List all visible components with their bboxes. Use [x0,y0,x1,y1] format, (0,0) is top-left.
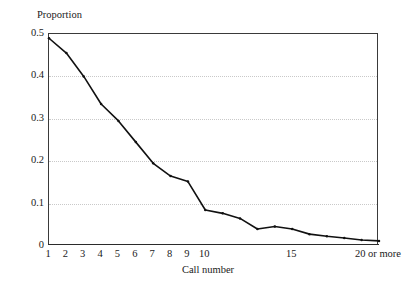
data-point [221,212,224,215]
data-point [117,120,120,123]
data-point [100,103,103,106]
y-axis-ticks: 00.10.20.30.40.5 [0,33,44,245]
x-tick-label: 6 [132,248,137,259]
data-point [343,237,346,240]
x-tick-label: 4 [97,248,102,259]
x-axis-title: Call number [0,264,416,276]
data-point [82,75,85,78]
data-point [291,228,294,231]
data-point [239,217,242,220]
data-point [65,52,68,55]
y-tick-label: 0.5 [0,28,44,39]
y-tick-label: 0.2 [0,155,44,166]
x-axis-ticks: 123456789101520 or more [0,248,416,262]
data-point [204,209,207,212]
x-tick-label: 20 or more [355,248,401,259]
data-point [187,180,190,183]
data-point [152,162,155,165]
series-line [49,34,379,246]
y-tick-label: 0.1 [0,198,44,209]
x-tick-label: 15 [286,248,297,259]
x-tick-label: 2 [63,248,68,259]
x-tick-label: 1 [45,248,50,259]
data-point [169,175,172,178]
series-polyline [49,38,379,241]
y-tick-label: 0.3 [0,113,44,124]
x-tick-label: 5 [115,248,120,259]
data-point [360,239,363,242]
proportion-by-call-number-chart: Proportion 00.10.20.30.40.5 123456789101… [0,0,416,289]
data-point [135,141,138,144]
x-tick-label: 9 [184,248,189,259]
data-point [48,37,51,40]
x-tick-label: 8 [167,248,172,259]
y-axis-title: Proportion [37,9,82,21]
x-tick-label: 3 [80,248,85,259]
x-tick-label: 10 [199,248,210,259]
plot-area [48,33,378,245]
data-point [378,240,381,243]
data-point [326,235,329,238]
y-tick-label: 0.4 [0,70,44,81]
data-point [256,228,259,231]
data-point [308,233,311,236]
data-point [274,225,277,228]
x-tick-label: 7 [150,248,155,259]
